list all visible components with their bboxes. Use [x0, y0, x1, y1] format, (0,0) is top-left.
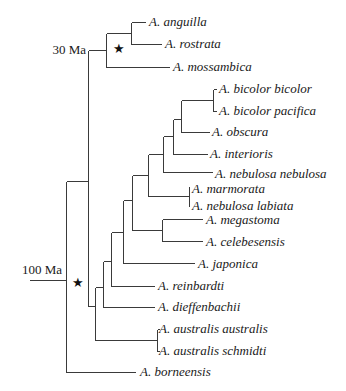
leaf-label-australis-schmidti: A. australis schmidti	[158, 343, 267, 358]
leaf-label-australis-australis: A. australis australis	[158, 321, 268, 336]
branches	[30, 23, 218, 373]
star-icon: ★	[113, 41, 125, 56]
leaf-label-nebulosa-labiata: A. nebulosa labiata	[191, 198, 294, 213]
phylogenetic-tree: 30 Ma 100 Ma ★ ★ A. anguilla A. rostrata…	[0, 0, 346, 391]
leaf-label-obscura: A. obscura	[211, 124, 269, 139]
leaf-label-rostrata: A. rostrata	[164, 36, 221, 51]
leaf-label-dieffenbachii: A. dieffenbachii	[157, 299, 241, 314]
leaf-label-megastoma: A. megastoma	[205, 212, 280, 227]
leaf-label-japonica: A. japonica	[197, 256, 258, 271]
leaf-label-mossambica: A. mossambica	[172, 59, 252, 74]
leaf-label-anguilla: A. anguilla	[148, 14, 207, 29]
leaf-label-bicolor-bicolor: A. bicolor bicolor	[218, 81, 313, 96]
time-label-100ma: 100 Ma	[22, 262, 62, 277]
leaf-label-borneensis: A. borneensis	[139, 364, 211, 379]
leaf-label-marmorata: A. marmorata	[191, 181, 265, 196]
leaf-label-interioris: A. interioris	[209, 146, 273, 161]
leaf-label-reinbardti: A. reinbardti	[157, 278, 225, 293]
leaf-label-bicolor-pacifica: A. bicolor pacifica	[218, 103, 317, 118]
leaf-label-celebesensis: A. celebesensis	[205, 234, 285, 249]
leaf-label-nebulosa-nebulosa: A. nebulosa nebulosa	[214, 166, 327, 181]
star-icon: ★	[72, 275, 84, 290]
time-label-30ma: 30 Ma	[52, 42, 86, 57]
